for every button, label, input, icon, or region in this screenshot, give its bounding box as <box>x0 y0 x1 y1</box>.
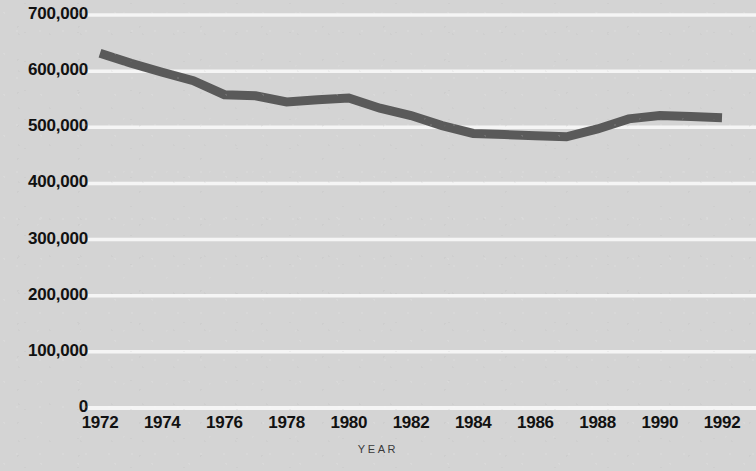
line-chart: 0100,000200,000300,000400,000500,000600,… <box>0 0 756 471</box>
x-axis-tick-label: 1986 <box>505 413 565 433</box>
x-axis-tick-label: 1990 <box>630 413 690 433</box>
x-axis-title: YEAR <box>0 443 756 455</box>
x-axis-tick-labels: 1972197419761978198019821984198619881990… <box>0 0 756 471</box>
x-axis-tick-label: 1974 <box>132 413 192 433</box>
x-axis-tick-label: 1978 <box>257 413 317 433</box>
x-axis-tick-label: 1984 <box>443 413 503 433</box>
x-axis-tick-label: 1982 <box>381 413 441 433</box>
x-axis-tick-label: 1992 <box>692 413 752 433</box>
x-axis-tick-label: 1988 <box>568 413 628 433</box>
x-axis-tick-label: 1972 <box>70 413 130 433</box>
x-axis-tick-label: 1980 <box>319 413 379 433</box>
x-axis-tick-label: 1976 <box>194 413 254 433</box>
